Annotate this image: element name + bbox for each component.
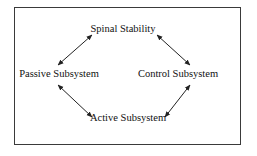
node-spinal-stability: Spinal Stability — [90, 23, 155, 35]
node-control-subsystem: Control Subsystem — [138, 68, 218, 80]
arrow-passive-spinal — [58, 35, 92, 65]
arrow-active-control — [165, 85, 190, 117]
node-active-subsystem: Active Subsystem — [90, 112, 166, 124]
arrow-spinal-control — [157, 35, 190, 65]
node-passive-subsystem: Passive Subsystem — [19, 68, 99, 80]
arrow-passive-active — [58, 85, 92, 117]
